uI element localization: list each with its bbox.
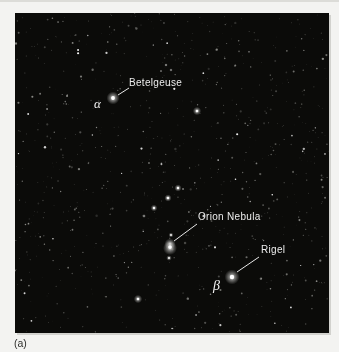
orion-constellation-photo: α Betelgeuse Orion Nebula β Rigel xyxy=(15,13,329,333)
alpha-symbol: α xyxy=(94,97,101,110)
beta-symbol: β xyxy=(213,279,220,293)
rigel-label: Rigel xyxy=(261,245,285,255)
figure-caption: (a) xyxy=(14,338,27,349)
betelgeuse-label: Betelgeuse xyxy=(129,78,182,88)
page-top-rule xyxy=(0,0,339,2)
starfield-canvas xyxy=(15,13,329,333)
figure-page: α Betelgeuse Orion Nebula β Rigel (a) xyxy=(0,0,339,352)
orion-nebula-label: Orion Nebula xyxy=(198,212,261,222)
